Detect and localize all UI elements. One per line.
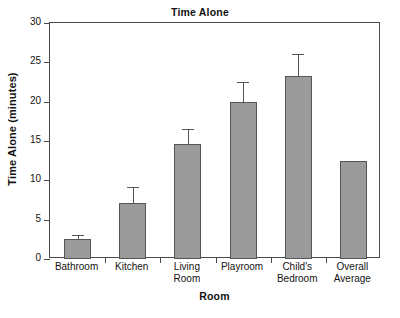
x-axis-category-label-line: Room [159,273,214,285]
x-axis-category-label-line: Bedroom [270,273,325,285]
x-axis-category-label: Bathroom [49,261,104,273]
y-axis-tick [44,180,50,181]
y-axis-tick [44,141,50,142]
x-axis-category-label-line: Kitchen [104,261,159,273]
y-axis-tick-label: 10 [15,174,41,184]
y-axis-title-text: Time Alone (minutes) [6,72,18,185]
x-axis-category-label: LivingRoom [159,261,214,284]
x-axis-category-label-line: Overall [325,261,380,273]
plot-area [49,22,380,258]
y-axis-tick [44,102,50,103]
x-axis-category-label: Child'sBedroom [270,261,325,284]
y-axis-tick-label: 25 [15,56,41,66]
x-axis-category-label-line: Average [325,273,380,285]
x-axis-category-label: Playroom [215,261,270,273]
error-bar-cap [182,129,194,130]
bar [119,203,146,259]
x-axis-category-label: OverallAverage [325,261,380,284]
y-axis-tick [44,62,50,63]
y-axis-tick-label: 5 [15,214,41,224]
x-axis-category-label-line: Bathroom [49,261,104,273]
x-axis-title: Room [49,290,380,302]
x-axis-category-label: Kitchen [104,261,159,273]
x-axis-category-label-line: Child's [270,261,325,273]
error-bar-cap [127,187,139,188]
chart-figure: Time Alone (minutes) Time Alone 05101520… [0,0,400,318]
y-axis-tick [44,23,50,24]
y-axis-tick-label: 15 [15,135,41,145]
bar [174,144,201,259]
bar [230,102,257,259]
error-bar-stem [133,187,134,204]
bar [340,161,367,259]
error-bar-stem [188,129,189,144]
error-bar-cap [237,82,249,83]
chart-title: Time Alone [0,6,400,18]
y-axis-tick [44,259,50,260]
x-axis-category-label-line: Playroom [215,261,270,273]
x-axis-category-label-line: Living [159,261,214,273]
error-bar-stem [298,54,299,75]
y-axis-tick-label: 20 [15,96,41,106]
y-axis-tick [44,220,50,221]
y-axis-tick-label: 0 [15,253,41,263]
bar [64,239,91,259]
error-bar-cap [292,54,304,55]
y-axis-tick-label: 30 [15,17,41,27]
error-bar-stem [243,82,244,102]
bar [285,76,312,259]
error-bar-cap [72,235,84,236]
